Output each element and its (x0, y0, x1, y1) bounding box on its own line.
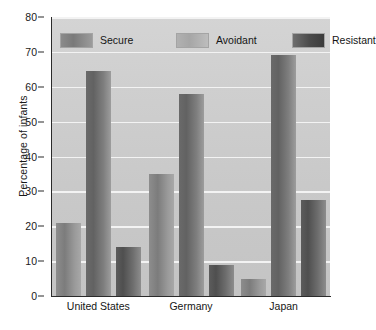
resistant-swatch (292, 33, 325, 48)
bar-secure-germany (149, 174, 174, 296)
y-tick-label: 50 (25, 116, 37, 128)
y-tick-label: 30 (25, 185, 37, 197)
chart-legend: SecureAvoidantResistant (52, 30, 330, 52)
y-tick-mark (38, 226, 44, 227)
gridline (52, 52, 330, 54)
y-tick-mark (38, 261, 44, 262)
y-tick-mark (38, 156, 44, 157)
y-tick-label: 20 (25, 220, 37, 232)
cropped-caption-sliver (0, 322, 337, 330)
bar-avoidant-germany (179, 94, 204, 296)
x-label-united-states: United States (67, 300, 130, 312)
y-tick-mark (38, 51, 44, 52)
plot-area (52, 17, 330, 296)
legend-item-secure: Secure (60, 30, 133, 50)
x-axis-category-labels: United StatesGermanyJapan (52, 300, 330, 320)
bar-secure-japan (241, 279, 266, 296)
y-axis-tick-labels: 01020304050607080 (0, 0, 48, 330)
legend-label: Resistant (332, 34, 376, 46)
x-axis-line (51, 296, 331, 297)
avoidant-swatch (176, 33, 209, 48)
legend-label: Secure (100, 34, 133, 46)
y-tick-label: 70 (25, 46, 37, 58)
bar-resistant-japan (301, 200, 326, 296)
y-tick-label: 60 (25, 81, 37, 93)
y-tick-mark (38, 296, 44, 297)
y-tick-label: 40 (25, 151, 37, 163)
x-label-japan: Japan (269, 300, 298, 312)
legend-item-avoidant: Avoidant (176, 30, 257, 50)
y-tick-mark (38, 191, 44, 192)
gridline (52, 17, 330, 19)
legend-label: Avoidant (216, 34, 257, 46)
y-tick-mark (38, 121, 44, 122)
y-tick-label: 10 (25, 255, 37, 267)
y-tick-mark (38, 86, 44, 87)
bar-resistant-united-states (116, 247, 141, 296)
secure-swatch (60, 33, 93, 48)
bar-avoidant-japan (271, 55, 296, 296)
y-tick-mark (38, 17, 44, 18)
y-tick-label: 80 (25, 11, 37, 23)
bar-avoidant-united-states (86, 71, 111, 296)
bar-secure-united-states (56, 223, 81, 296)
bar-resistant-germany (209, 265, 234, 296)
y-tick-label: 0 (31, 290, 37, 302)
x-label-germany: Germany (169, 300, 212, 312)
legend-item-resistant: Resistant (292, 30, 376, 50)
